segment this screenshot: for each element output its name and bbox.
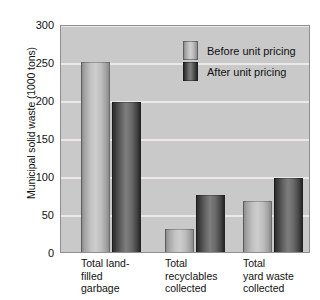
y-tick-label: 200 — [8, 95, 54, 107]
legend-label-before: Before unit pricing — [207, 45, 296, 57]
legend-item-before[interactable]: Before unit pricing — [183, 40, 296, 61]
legend-item-after[interactable]: After unit pricing — [183, 61, 296, 82]
bar-before[interactable] — [81, 62, 110, 252]
plot-area: Before unit pricing After unit pricing — [60, 25, 310, 253]
bar-after[interactable] — [112, 102, 141, 252]
bar-before[interactable] — [165, 229, 194, 252]
bar-before[interactable] — [243, 201, 272, 252]
x-category-label-line: yard waste — [243, 270, 294, 283]
x-category-label-line: recyclables — [165, 270, 218, 283]
x-category-label-line: collected — [165, 282, 218, 295]
y-tick-label: 250 — [8, 57, 54, 69]
y-tick-label: 50 — [8, 209, 54, 221]
bar-after[interactable] — [196, 195, 225, 252]
legend: Before unit pricing After unit pricing — [183, 40, 296, 82]
x-category-label-line: collected — [243, 282, 294, 295]
legend-swatch-before-icon — [183, 41, 198, 60]
x-category-label-line: Total — [165, 257, 218, 270]
y-tick-label: 300 — [8, 19, 54, 31]
y-axis-title: Municipal solid waste (1000 tons) — [25, 18, 37, 228]
y-tick-label: 0 — [8, 247, 54, 259]
x-category-label-line: garbage — [81, 282, 129, 295]
x-category-label-line: Total land- — [81, 257, 129, 270]
legend-swatch-after-icon — [183, 62, 198, 81]
bar-after[interactable] — [274, 178, 303, 252]
y-tick-label: 100 — [8, 171, 54, 183]
x-category-label: Totalyard wastecollected — [243, 257, 294, 295]
x-category-label-line: Total — [243, 257, 294, 270]
legend-label-after: After unit pricing — [207, 66, 286, 78]
gridline — [61, 25, 309, 27]
x-category-label: Total land-filledgarbage — [81, 257, 129, 295]
y-tick-label: 150 — [8, 133, 54, 145]
bar-chart-figure: Municipal solid waste (1000 tons) 050100… — [0, 0, 320, 300]
x-category-label-line: filled — [81, 270, 129, 283]
x-category-label: Totalrecyclablescollected — [165, 257, 218, 295]
